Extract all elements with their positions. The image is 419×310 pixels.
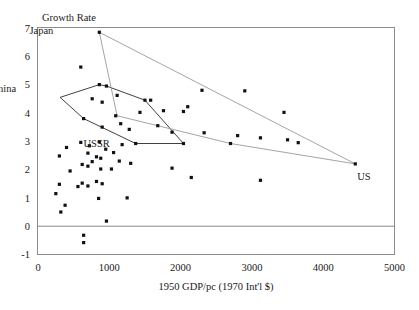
data-point: [65, 146, 68, 149]
x-tick-label: 4000: [313, 262, 334, 273]
y-tick-label: 4: [25, 108, 31, 119]
data-point: [186, 105, 189, 108]
data-point: [82, 234, 85, 237]
data-point: [138, 111, 141, 114]
data-point: [297, 141, 300, 144]
data-point: [59, 210, 62, 213]
y-tick-label: 6: [25, 51, 30, 62]
y-tick-label: 5: [25, 79, 30, 90]
hull-dark-hull: [60, 85, 183, 144]
x-tick-label: 1000: [99, 262, 120, 273]
data-point: [99, 167, 102, 170]
point-annotations: JapanChinaUSSRUS: [0, 25, 371, 182]
data-point: [259, 136, 262, 139]
hull-light-hull: [99, 32, 355, 164]
data-point: [95, 180, 98, 183]
data-point: [182, 110, 185, 113]
y-tick-label: 2: [25, 164, 30, 175]
data-point: [119, 122, 122, 125]
data-point: [91, 160, 94, 163]
data-point: [101, 182, 104, 185]
data-point: [98, 31, 101, 34]
data-point: [156, 124, 159, 127]
data-point: [354, 162, 357, 165]
x-tick-label: 3000: [241, 262, 262, 273]
data-point: [243, 89, 246, 92]
data-point: [118, 159, 121, 162]
x-tick-label: 0: [35, 262, 40, 273]
data-point: [58, 183, 61, 186]
data-point: [126, 196, 129, 199]
data-point: [170, 131, 173, 134]
y-tick-label: -1: [21, 249, 30, 260]
annotation-label-us: US: [357, 171, 371, 182]
data-point: [54, 192, 57, 195]
annotation-label-japan: Japan: [29, 25, 54, 36]
data-point: [200, 89, 203, 92]
data-point: [121, 143, 124, 146]
data-point: [129, 162, 132, 165]
data-point: [105, 219, 108, 222]
data-point: [236, 134, 239, 137]
data-point: [114, 114, 117, 117]
data-point: [81, 182, 84, 185]
data-point: [98, 83, 101, 86]
data-point: [170, 167, 173, 170]
data-point: [259, 179, 262, 182]
data-point: [76, 185, 79, 188]
annotation-label-ussr: USSR: [83, 138, 109, 149]
data-point: [190, 176, 193, 179]
data-point: [63, 204, 66, 207]
y-tick-label: 3: [25, 136, 30, 147]
data-point: [105, 84, 108, 87]
data-point: [82, 117, 85, 120]
x-tick-label: 2000: [170, 262, 191, 273]
data-point: [101, 101, 104, 104]
chart-figure: 76543210-1 010002000300040005000 JapanCh…: [0, 0, 419, 310]
y-axis-tick-labels: 76543210-1: [21, 23, 31, 260]
scatter-plot: 76543210-1 010002000300040005000 JapanCh…: [0, 0, 419, 310]
data-point: [110, 167, 113, 170]
data-point: [162, 109, 165, 112]
data-point: [229, 142, 232, 145]
data-point: [112, 151, 115, 154]
data-point: [95, 155, 98, 158]
data-point: [81, 163, 84, 166]
x-tick-label: 5000: [384, 262, 405, 273]
data-point: [182, 142, 185, 145]
data-point: [282, 111, 285, 114]
data-point: [82, 241, 85, 244]
data-point: [97, 197, 100, 200]
data-point: [99, 157, 102, 160]
data-point: [86, 165, 89, 168]
data-point: [58, 154, 61, 157]
data-point: [143, 99, 146, 102]
data-point: [86, 152, 89, 155]
x-axis-title: 1950 GDP/pc (1970 Int'l $): [158, 281, 274, 293]
data-point: [79, 141, 82, 144]
y-axis-title: Growth Rate: [42, 12, 96, 23]
annotation-label-china: China: [0, 83, 16, 94]
data-point: [79, 65, 82, 68]
data-point: [86, 184, 89, 187]
data-point: [68, 169, 71, 172]
x-axis-tick-labels: 010002000300040005000: [35, 262, 405, 273]
data-point: [128, 128, 131, 131]
data-point: [91, 97, 94, 100]
y-tick-label: 1: [25, 193, 30, 204]
data-point: [149, 99, 152, 102]
data-point: [286, 138, 289, 141]
y-tick-label: 0: [25, 221, 30, 232]
data-point: [101, 125, 104, 128]
data-point: [203, 131, 206, 134]
data-point: [116, 94, 119, 97]
data-point: [134, 142, 137, 145]
